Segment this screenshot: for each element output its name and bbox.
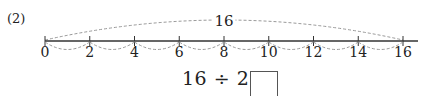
step-arc (45, 42, 90, 50)
answer-input-box[interactable] (250, 71, 278, 96)
problem-number: (2) (7, 12, 25, 25)
tick-label: 6 (175, 45, 184, 59)
tick-label: 12 (305, 45, 323, 59)
tick-label: 16 (394, 45, 412, 59)
tick-label: 10 (260, 45, 278, 59)
number-line-diagram: (2) 16 0246810121416 16 ÷ 2 = (0, 0, 433, 96)
total-length-label: 16 (212, 14, 235, 29)
tick-label: 2 (85, 45, 94, 59)
tick-label: 4 (130, 45, 139, 59)
tick-label: 0 (41, 45, 50, 59)
step-arc (179, 42, 224, 50)
step-arc (90, 42, 135, 50)
tick-label: 14 (349, 45, 367, 59)
tick-label: 8 (220, 45, 229, 59)
step-arc (135, 42, 180, 50)
